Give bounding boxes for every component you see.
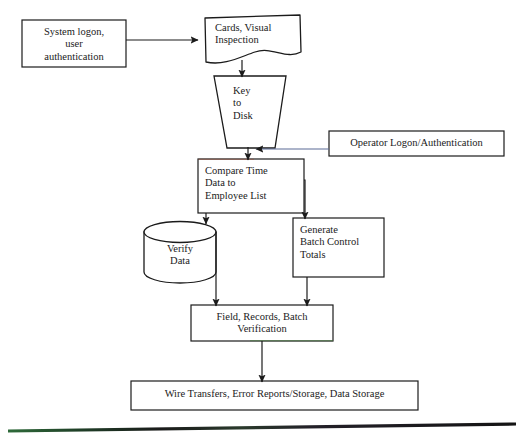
node-verify-data-top bbox=[144, 222, 216, 243]
node-operator-logon bbox=[329, 131, 504, 156]
node-field-records-batch-verification bbox=[191, 305, 333, 341]
node-system-logon bbox=[22, 20, 126, 67]
flowchart-canvas bbox=[0, 0, 524, 443]
node-wire-transfers-storage bbox=[131, 381, 418, 410]
flowchart-page: System logon, user authentication Cards,… bbox=[0, 0, 524, 443]
bottom-scan-line bbox=[8, 424, 516, 431]
node-compare-time-data bbox=[198, 159, 304, 213]
node-generate-batch-control-totals bbox=[293, 218, 384, 277]
node-key-to-disk bbox=[214, 76, 286, 148]
node-cards-visual-inspection bbox=[205, 15, 301, 63]
